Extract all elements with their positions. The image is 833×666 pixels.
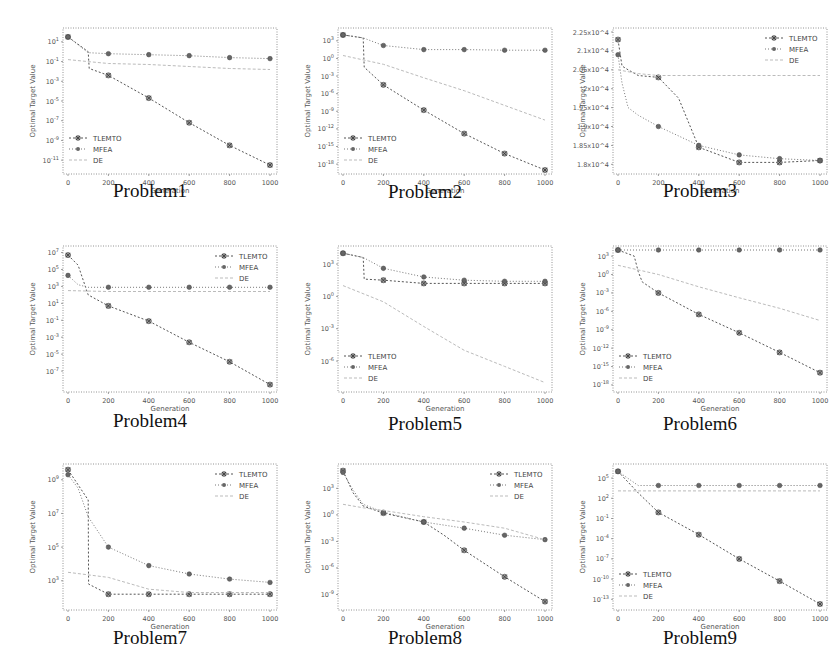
x-tick-label: 800 — [223, 397, 235, 405]
panel-caption: Problem8 — [290, 627, 560, 649]
chart-legend: TLEMTOMFEADE — [344, 135, 397, 165]
y-tick-label: 107 — [48, 508, 59, 518]
x-tick-label: 200 — [652, 397, 664, 405]
y-tick-label: 10-3 — [46, 332, 59, 342]
marker-dot-icon — [462, 47, 467, 52]
marker-x-icon — [817, 601, 822, 606]
chart-panel-5: 10310010-310-602004006008001000Generatio… — [290, 220, 560, 435]
y-tick-label: 10-12 — [318, 123, 334, 133]
marker-dot-icon — [227, 577, 232, 582]
marker-x-icon — [656, 510, 661, 515]
y-tick-label: 2.1x10^4 — [577, 47, 609, 55]
y-tick-label: 10-6 — [596, 306, 609, 316]
marker-dot-icon — [737, 153, 742, 158]
marker-x-icon — [502, 574, 507, 579]
chart-svg: 10110-110-310-510-710-910-11020040060080… — [15, 2, 285, 202]
marker-dot-icon — [187, 53, 192, 58]
marker-x-icon — [146, 592, 151, 597]
y-tick-label: 10-3 — [321, 536, 334, 546]
marker-dot-icon — [66, 273, 71, 278]
panel-caption: Problem2 — [290, 181, 560, 203]
x-tick-label: 0 — [341, 397, 345, 405]
y-tick-label: 10-3 — [46, 76, 59, 86]
legend-label-mfea: MFEA — [368, 364, 387, 372]
x-tick-label: 1000 — [812, 397, 829, 405]
y-tick-label: 10-5 — [46, 349, 59, 359]
marker-dot-icon — [818, 158, 823, 163]
panel-caption: Problem9 — [565, 627, 833, 649]
y-tick-label: 10-9 — [321, 589, 334, 599]
y-tick-label: 10-9 — [321, 106, 334, 116]
chart-legend: TLEMTOMFEADE — [344, 353, 397, 383]
panel-caption: Problem6 — [565, 413, 833, 435]
marker-x-icon — [187, 340, 192, 345]
chart-svg: 10310010-310-610-910-1210-1510-180200400… — [290, 2, 560, 202]
y-tick-label: 103 — [323, 259, 334, 269]
legend-label-mfea: MFEA — [643, 364, 662, 372]
x-tick-label: 200 — [377, 615, 389, 623]
y-tick-label: 1.85x10^4 — [573, 142, 609, 150]
chart-svg: 10310010-310-610-910-1210-1510-180200400… — [565, 220, 833, 420]
marker-x-icon — [696, 532, 701, 537]
x-tick-label: 400 — [143, 615, 155, 623]
legend-label-mfea: MFEA — [643, 582, 662, 590]
marker-dot-icon — [341, 251, 346, 256]
x-tick-label: 600 — [733, 615, 745, 623]
x-tick-label: 200 — [652, 615, 664, 623]
x-tick-label: 400 — [143, 397, 155, 405]
marker-x-icon — [227, 359, 232, 364]
x-tick-label: 600 — [183, 397, 195, 405]
y-tick-label: 10-7 — [46, 115, 59, 125]
y-tick-label: 105 — [48, 264, 59, 274]
legend-label-tlemto: TLEMTO — [238, 471, 268, 479]
y-axis-label: Optimal Target Value — [29, 64, 37, 137]
marker-dot-icon — [462, 526, 467, 531]
marker-x-icon — [146, 95, 151, 100]
marker-x-icon — [656, 290, 661, 295]
legend-label-de: DE — [93, 157, 103, 165]
marker-dot-icon — [737, 248, 742, 253]
legend-label-tlemto: TLEMTO — [92, 135, 122, 143]
marker-x-icon — [381, 82, 386, 87]
marker-x-icon — [146, 319, 151, 324]
series-line-de — [68, 291, 270, 292]
y-tick-label: 10-3 — [321, 323, 334, 333]
marker-dot-icon — [341, 33, 346, 38]
y-tick-label: 10-9 — [596, 324, 609, 334]
legend-label-mfea: MFEA — [239, 264, 258, 272]
marker-dot-icon — [147, 563, 152, 568]
marker-x-icon — [542, 167, 547, 172]
x-tick-label: 800 — [773, 397, 785, 405]
marker-x-icon — [267, 382, 272, 387]
marker-x-icon — [615, 37, 620, 42]
y-tick-label: 10-1 — [46, 56, 59, 66]
x-tick-label: 400 — [693, 397, 705, 405]
marker-x-icon — [462, 131, 467, 136]
marker-dot-icon — [818, 248, 823, 253]
y-tick-label: 2.25x10^4 — [573, 29, 609, 37]
x-tick-label: 400 — [418, 397, 430, 405]
y-tick-label: 103 — [598, 251, 609, 261]
y-tick-label: 102 — [598, 493, 609, 503]
x-tick-label: 600 — [458, 615, 470, 623]
series-line-de — [343, 504, 545, 539]
chart-svg: 10710510310110-110-310-510-7020040060080… — [15, 220, 285, 420]
marker-dot-icon — [777, 156, 782, 161]
marker-x-icon — [106, 73, 111, 78]
marker-dot-icon — [227, 285, 232, 290]
x-tick-label: 1000 — [537, 397, 554, 405]
marker-dot-icon — [422, 275, 427, 280]
panel-caption: Problem1 — [15, 180, 285, 202]
marker-x-icon — [227, 143, 232, 148]
y-tick-label: 10-4 — [596, 533, 609, 543]
legend-label-de: DE — [789, 57, 799, 65]
x-tick-label: 400 — [418, 615, 430, 623]
marker-dot-icon — [502, 533, 507, 538]
series-line-mfea — [343, 35, 545, 50]
marker-dot-icon — [502, 48, 507, 53]
marker-x-icon — [187, 120, 192, 125]
x-tick-label: 0 — [66, 397, 70, 405]
marker-x-icon — [381, 278, 386, 283]
x-axis-label: Generation — [700, 405, 739, 413]
chart-legend: TLEMTOMFEADE — [215, 253, 268, 283]
